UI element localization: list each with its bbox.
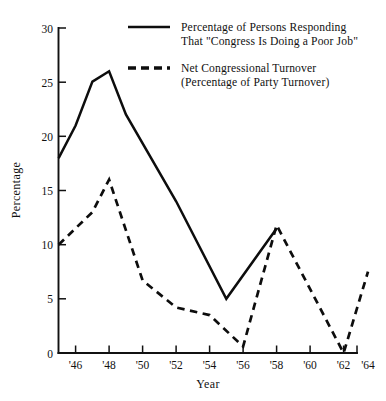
x-axis-ticks [76,346,357,354]
y-tick-label: 15 [42,185,54,197]
x-tick-label: '48 [102,359,116,371]
y-tick-label: 30 [42,23,54,35]
y-tick-label: 25 [42,77,54,89]
y-tick-label: 0 [47,348,53,360]
series-line-congressional-turnover [59,180,368,353]
x-tick-label: '54 [203,359,217,371]
line-chart: 30 25 20 15 10 5 0 '46 '48 '50 '52 [0,0,386,401]
x-tick-label: '52 [169,359,183,371]
y-axis-ticks [59,28,67,299]
y-axis-tick-labels: 30 25 20 15 10 5 0 [42,23,54,360]
x-tick-label: '64 [361,359,375,371]
legend-entry-1-line-1: Percentage of Persons Responding [181,21,347,34]
legend-entry-2-line-1: Net Congressional Turnover [181,62,316,75]
x-tick-label: '58 [270,359,284,371]
y-axis-title: Percentage [9,162,23,219]
y-tick-label: 20 [42,131,54,143]
x-tick-label: '46 [69,359,83,371]
x-axis-title: Year [196,377,220,391]
x-tick-label: '62 [337,359,351,371]
legend-entry-2-line-2: (Percentage of Party Turnover) [181,76,329,89]
legend-entry-1-line-2: That "Congress Is Doing a Poor Job" [181,35,358,48]
legend: Percentage of Persons Responding That "C… [128,21,358,89]
chart-container: 30 25 20 15 10 5 0 '46 '48 '50 '52 [0,0,386,401]
x-tick-label: '56 [236,359,250,371]
x-tick-label: '60 [303,359,317,371]
series-line-congress-poor-job [59,71,277,298]
y-tick-label: 10 [42,239,54,251]
y-tick-label: 5 [47,293,53,305]
x-axis-tick-labels: '46 '48 '50 '52 '54 '56 '58 '60 '62 '64 [69,359,375,371]
x-tick-label: '50 [136,359,150,371]
